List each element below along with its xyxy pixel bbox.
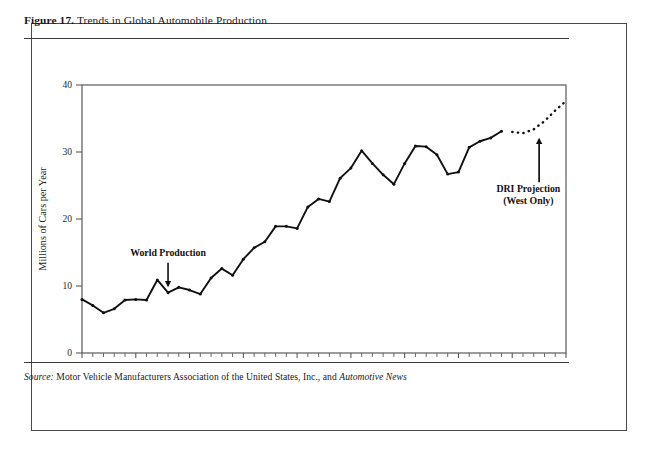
- data-point: [489, 136, 492, 139]
- data-point: [210, 276, 213, 279]
- chart-frame: [82, 85, 566, 353]
- annotation-dri-projection-line1: DRI Projection: [496, 183, 560, 194]
- source-note: Source: Motor Vehicle Manufacturers Asso…: [24, 371, 574, 382]
- x-axis-ticks: 1950195519601965197019751980198519901995: [72, 353, 575, 358]
- figure-title: Trends in Global Automobile Production: [77, 14, 267, 26]
- chart-annotations: World ProductionDRI Projection(West Only…: [130, 138, 561, 288]
- data-point: [349, 167, 352, 170]
- y-tick-label: 20: [62, 213, 72, 224]
- data-point: [468, 146, 471, 149]
- data-point: [306, 205, 309, 208]
- data-point: [435, 153, 438, 156]
- projection-line: [512, 101, 566, 133]
- source-prefix: Source:: [24, 371, 54, 382]
- data-point: [134, 298, 137, 301]
- plot-frame-rect: [82, 85, 566, 353]
- data-point: [81, 298, 84, 301]
- data-point: [274, 225, 277, 228]
- data-point: [457, 171, 460, 174]
- data-point: [220, 267, 223, 270]
- figure-caption: Figure 17. Trends in Global Automobile P…: [24, 14, 564, 26]
- data-point: [113, 307, 116, 310]
- data-point: [500, 130, 503, 133]
- caption-divider: [24, 38, 569, 39]
- arrowhead-dri-projection: [536, 138, 542, 144]
- annotation-world-production: World Production: [130, 247, 206, 258]
- data-point: [199, 293, 202, 296]
- data-point: [156, 278, 159, 281]
- y-tick-label: 10: [62, 280, 72, 291]
- data-point: [231, 274, 234, 277]
- y-tick-label: 0: [67, 347, 72, 358]
- y-axis-ticks: 010203040: [62, 79, 82, 358]
- data-series-group: [81, 101, 567, 314]
- data-point: [403, 162, 406, 165]
- data-point: [263, 240, 266, 243]
- data-point: [124, 299, 127, 302]
- data-point: [339, 177, 342, 180]
- data-point: [253, 246, 256, 249]
- data-point: [242, 258, 245, 261]
- figure-number: Figure 17.: [24, 14, 74, 26]
- data-point: [360, 149, 363, 152]
- data-point: [317, 197, 320, 200]
- data-point: [296, 227, 299, 230]
- y-tick-label: 40: [62, 79, 72, 90]
- source-publication: Automotive News: [339, 371, 407, 382]
- annotation-dri-projection-line2: (West Only): [503, 195, 553, 207]
- data-point: [478, 140, 481, 143]
- production-line: [82, 131, 501, 313]
- data-point: [371, 162, 374, 165]
- data-point: [446, 173, 449, 176]
- data-point: [392, 183, 395, 186]
- data-point: [145, 299, 148, 302]
- data-point: [414, 144, 417, 147]
- data-point: [382, 173, 385, 176]
- data-point: [188, 289, 191, 292]
- y-axis-label: Millions of Cars per Year: [37, 167, 48, 271]
- data-point: [102, 311, 105, 314]
- data-point: [328, 200, 331, 203]
- data-point: [425, 145, 428, 148]
- data-point: [91, 304, 94, 307]
- data-point: [285, 225, 288, 228]
- data-point: [177, 286, 180, 289]
- figure-page: Figure 17. Trends in Global Automobile P…: [0, 0, 656, 461]
- source-divider: [24, 362, 569, 363]
- chart-plot-area: 010203040 195019551960196519701975198019…: [20, 48, 580, 358]
- source-text: Motor Vehicle Manufacturers Association …: [56, 371, 336, 382]
- data-point: [167, 291, 170, 294]
- line-chart-svg: 010203040 195019551960196519701975198019…: [20, 48, 580, 358]
- y-tick-label: 30: [62, 146, 72, 157]
- arrowhead-world-production: [165, 281, 171, 287]
